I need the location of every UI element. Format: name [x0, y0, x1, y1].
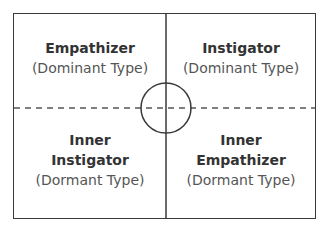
quadrant-title-line-1: Inner — [14, 130, 166, 150]
quadrant-top-right: Instigator (Dominant Type) — [166, 38, 316, 78]
quadrant-title: Instigator — [166, 38, 316, 58]
quadrant-bottom-left: Inner Instigator (Dormant Type) — [14, 130, 166, 190]
quadrant-bottom-right: Inner Empathizer (Dormant Type) — [166, 130, 316, 190]
quadrant-subtitle: (Dormant Type) — [166, 170, 316, 190]
quadrant-axes — [0, 0, 328, 230]
quadrant-title-line-1: Inner — [166, 130, 316, 150]
quadrant-top-left: Empathizer (Dominant Type) — [14, 38, 166, 78]
quadrant-subtitle: (Dominant Type) — [166, 58, 316, 78]
quadrant-title-line-2: Instigator — [14, 150, 166, 170]
quadrant-subtitle: (Dominant Type) — [14, 58, 166, 78]
quadrant-title: Empathizer — [14, 38, 166, 58]
quadrant-subtitle: (Dormant Type) — [14, 170, 166, 190]
quadrant-title-line-2: Empathizer — [166, 150, 316, 170]
